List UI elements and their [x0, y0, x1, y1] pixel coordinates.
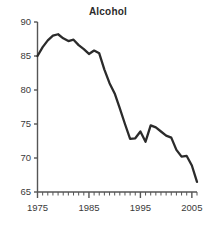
y-axis: 657075808590: [20, 16, 37, 197]
y-axis-tick-label: 90: [20, 16, 31, 27]
alcohol-line-chart: Alcohol 657075808590 1975198519952005: [0, 0, 216, 229]
y-axis-tick-label: 65: [20, 186, 31, 197]
x-axis-tick-label: 1995: [130, 202, 151, 213]
x-axis-tick-label: 1975: [27, 202, 48, 213]
data-series-group: [38, 34, 198, 182]
x-axis-tick-label: 2005: [181, 202, 202, 213]
y-axis-tick-label: 85: [20, 50, 31, 61]
x-axis-tick-label: 1985: [78, 202, 99, 213]
x-axis: 1975198519952005: [27, 192, 202, 213]
data-series-line: [38, 34, 198, 182]
y-axis-tick-label: 80: [20, 84, 31, 95]
y-axis-tick-label: 70: [20, 152, 31, 163]
chart-plot-area: 657075808590 1975198519952005: [0, 0, 216, 229]
y-axis-tick-label: 75: [20, 118, 31, 129]
